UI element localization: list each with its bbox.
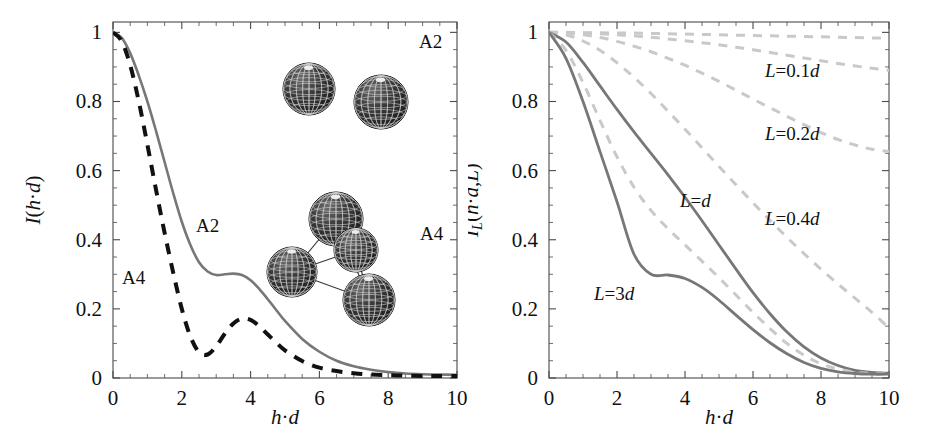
left-ytick-1: 0.2	[76, 297, 102, 321]
right-xaxis-title: h·d	[705, 405, 734, 429]
right-xtick-4: 8	[816, 386, 827, 410]
right-xtick-3: 6	[748, 386, 759, 410]
left-ytick-0: 0	[92, 366, 103, 390]
left-axis-ticks	[113, 22, 457, 378]
right-xtick-1: 2	[612, 386, 623, 410]
left-ytick-3: 0.6	[76, 159, 102, 183]
label-L-0p4d: L=0.4d	[764, 208, 820, 229]
right-xtick-0: 0	[544, 386, 555, 410]
left-ytick-2: 0.4	[76, 228, 103, 252]
left-xtick-3: 6	[314, 386, 325, 410]
left-yaxis-title: I(h·d)	[21, 176, 45, 226]
left-xtick-2: 4	[245, 386, 256, 410]
left-xtick-5: 10	[447, 386, 468, 410]
left-ytick-4: 0.8	[76, 89, 102, 113]
label-a4-cluster: A4	[420, 223, 444, 244]
sphere-2	[267, 247, 317, 297]
sphere-1	[334, 228, 378, 272]
right-ytick-0: 0	[528, 366, 539, 390]
curve-L-d	[549, 32, 889, 373]
right-ytick-2: 0.4	[512, 228, 539, 252]
right-plot-svg: 0246810 00.20.40.60.81 L=0.1dL=0.2dL=0.4…	[468, 0, 936, 447]
left-xaxis-title: h·d	[271, 405, 300, 429]
right-ytick-3: 0.6	[512, 159, 538, 183]
scientific-figure: 0246810 00.20.40.60.81 A2A4A2A4 h·d I(h·…	[0, 0, 936, 447]
right-axis-frame	[549, 22, 889, 378]
left-plot-svg: 0246810 00.20.40.60.81 A2A4A2A4 h·d I(h·…	[0, 0, 468, 447]
label-L-d: L=d	[679, 190, 711, 211]
cluster-a4-tetramer	[267, 192, 395, 326]
label-a2-curve: A2	[196, 215, 219, 236]
right-xtick-5: 10	[879, 386, 900, 410]
label-L-0p1d: L=0.1d	[764, 60, 820, 81]
plot-panel-left: 0246810 00.20.40.60.81 A2A4A2A4 h·d I(h·…	[0, 0, 468, 447]
label-a4-curve: A4	[122, 267, 146, 288]
label-L-3d: L=3d	[593, 283, 635, 304]
left-xtick-0: 0	[108, 386, 119, 410]
label-a2-cluster: A2	[419, 31, 442, 52]
right-ytick-1: 0.2	[512, 297, 538, 321]
right-ytick-4: 0.8	[512, 89, 538, 113]
right-yaxis-title: IL(h·d,L)	[468, 163, 485, 238]
cluster-illustrations	[267, 63, 408, 326]
left-axis-frame	[113, 22, 457, 378]
right-ytick-5: 1	[528, 20, 539, 44]
left-y-tick-labels: 00.20.40.60.81	[76, 20, 103, 390]
cluster-a2-dimer	[283, 63, 408, 129]
left-xtick-1: 2	[177, 386, 188, 410]
left-xtick-4: 8	[383, 386, 394, 410]
sphere-3	[343, 274, 395, 326]
sphere-1	[354, 75, 408, 129]
right-y-tick-labels: 00.20.40.60.81	[512, 20, 539, 390]
sphere-0	[283, 63, 335, 115]
right-annotations: L=0.1dL=0.2dL=0.4dL=dL=3d	[593, 60, 820, 304]
left-ytick-5: 1	[92, 20, 103, 44]
plot-panel-right: 0246810 00.20.40.60.81 L=0.1dL=0.2dL=0.4…	[468, 0, 936, 447]
right-axis-ticks	[549, 22, 889, 378]
right-xtick-2: 4	[680, 386, 691, 410]
label-L-0p2d: L=0.2d	[764, 123, 820, 144]
right-curves	[549, 32, 889, 374]
